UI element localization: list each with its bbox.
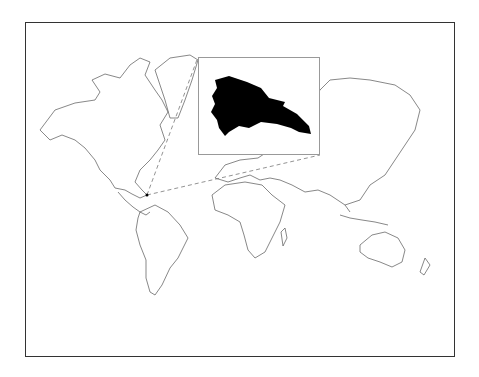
north-america-outline <box>40 58 168 198</box>
australia-outline <box>360 232 405 267</box>
inset-box <box>198 57 320 155</box>
greenland-outline <box>155 55 198 118</box>
africa-outline <box>212 182 285 258</box>
dominican-republic-marker <box>146 194 149 197</box>
connector-line-top <box>147 57 198 195</box>
madagascar-outline <box>281 228 287 246</box>
dominican-republic-shape <box>199 58 319 154</box>
connector-line-bottom <box>147 155 320 195</box>
south-america-outline <box>136 205 188 295</box>
southeast-asia-islands <box>340 205 388 225</box>
new-zealand-outline <box>420 258 430 275</box>
